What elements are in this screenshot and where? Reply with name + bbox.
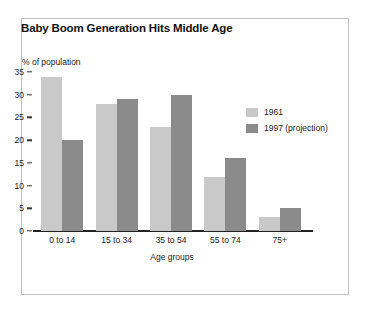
legend-swatch-icon bbox=[246, 108, 258, 117]
y-axis-tick-mark bbox=[27, 71, 32, 72]
chart-title: Baby Boom Generation Hits Middle Age bbox=[21, 22, 232, 34]
bar-1961-35-to-54 bbox=[150, 127, 171, 231]
y-axis-tick-mark bbox=[27, 139, 32, 140]
legend-label: 1997 (projection) bbox=[264, 123, 328, 133]
bar-1997-0-to-14 bbox=[62, 140, 83, 231]
y-axis-tick-mark bbox=[27, 230, 32, 231]
y-axis-tick-label: 25 bbox=[15, 112, 24, 122]
y-axis-tick-mark bbox=[27, 117, 32, 118]
y-axis-tick-label: 20 bbox=[15, 135, 24, 145]
bar-group bbox=[253, 72, 307, 231]
bar-1961-75+ bbox=[259, 217, 280, 231]
bar-1961-0-to-14 bbox=[41, 77, 62, 231]
y-axis-tick-label: 35 bbox=[15, 67, 24, 77]
plot-area bbox=[35, 72, 307, 231]
bar-1997-55-to-74 bbox=[225, 158, 246, 231]
y-axis-tick-label: 10 bbox=[15, 181, 24, 191]
bar-1997-15-to-34 bbox=[117, 99, 138, 231]
legend-item: 1997 (projection) bbox=[246, 123, 328, 133]
bar-group bbox=[89, 72, 143, 231]
y-axis-tick-label: 0 bbox=[19, 226, 24, 236]
bar-1961-55-to-74 bbox=[204, 177, 225, 232]
bar-group bbox=[144, 72, 198, 231]
legend-swatch-icon bbox=[246, 124, 258, 133]
bar-group bbox=[198, 72, 252, 231]
y-axis-tick-mark bbox=[27, 94, 32, 95]
x-axis-category-label: 35 to 54 bbox=[156, 235, 187, 245]
y-axis-tick-mark bbox=[27, 162, 32, 163]
x-axis-category-label: 15 to 34 bbox=[101, 235, 132, 245]
y-axis-ticks: 05101520253035 bbox=[0, 0, 33, 322]
bar-1997-35-to-54 bbox=[171, 95, 192, 231]
bar-1997-75+ bbox=[280, 208, 301, 231]
y-axis-tick-label: 5 bbox=[19, 203, 24, 213]
bar-group bbox=[35, 72, 89, 231]
x-axis-title: Age groups bbox=[150, 252, 193, 262]
bar-1961-15-to-34 bbox=[96, 104, 117, 231]
y-axis-tick-mark bbox=[27, 185, 32, 186]
chart-legend: 19611997 (projection) bbox=[246, 107, 328, 139]
y-axis-tick-label: 30 bbox=[15, 90, 24, 100]
x-axis-category-label: 0 to 14 bbox=[49, 235, 75, 245]
y-axis-tick-label: 15 bbox=[15, 158, 24, 168]
legend-item: 1961 bbox=[246, 107, 328, 117]
legend-label: 1961 bbox=[264, 107, 283, 117]
x-axis-category-label: 75+ bbox=[273, 235, 287, 245]
x-axis-category-label: 55 to 74 bbox=[210, 235, 241, 245]
y-axis-tick-mark bbox=[27, 208, 32, 209]
